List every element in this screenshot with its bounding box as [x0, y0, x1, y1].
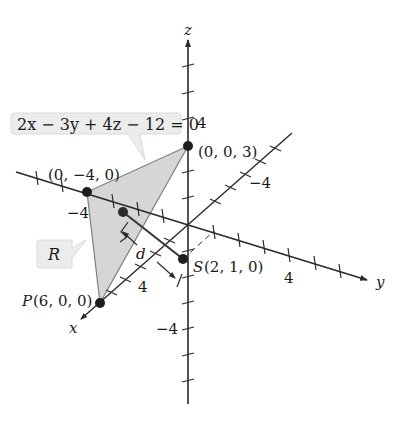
- plane-equation-label: 2x − 3y + 4z − 12 = 0: [17, 115, 199, 134]
- z-axis-label: z: [183, 21, 192, 39]
- point-p: [95, 298, 105, 308]
- region-label: R: [47, 245, 60, 264]
- p-name-label: P: [21, 292, 33, 310]
- x-tick-4: 4: [138, 278, 148, 296]
- x-tick-neg4: −4: [249, 174, 271, 192]
- z-intercept-label: (0, 0, 3): [198, 143, 257, 161]
- plane-equation-callout: 2x − 3y + 4z − 12 = 0: [11, 113, 199, 160]
- point-s: [178, 254, 188, 264]
- distance-arrow-lower: [157, 262, 175, 278]
- y-axis-label: y: [375, 273, 385, 291]
- distance-end-bar: [177, 274, 182, 287]
- p-coords-label: (6, 0, 0): [33, 292, 92, 310]
- distance-label: d: [136, 245, 146, 263]
- s-name-label: S: [193, 258, 203, 276]
- s-coords-label: (2, 1, 0): [204, 258, 263, 276]
- z-tick-4: 4: [197, 114, 207, 132]
- y-tick-neg4: −4: [67, 204, 89, 222]
- 3d-plane-diagram: 2x − 3y + 4z − 12 = 0 R: [0, 0, 395, 427]
- y-tick-4: 4: [284, 269, 294, 287]
- point-on-plane: [118, 207, 128, 217]
- z-tick-neg4: −4: [156, 320, 178, 338]
- region-r-callout: R: [37, 240, 86, 268]
- y-intercept-label: (0, −4, 0): [48, 166, 120, 184]
- x-axis-label: x: [69, 319, 78, 337]
- point-y-intercept: [82, 187, 92, 197]
- point-z-intercept: [183, 141, 193, 151]
